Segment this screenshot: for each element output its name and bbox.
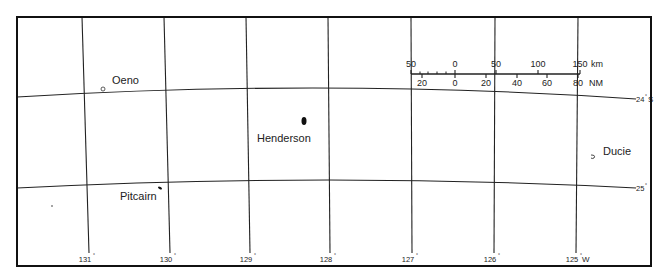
longitude-label: 131 [79,255,92,264]
nm-scale-label: 0 [452,78,457,88]
degree-symbol: ° [93,252,95,258]
km-scale-label: 50 [406,59,416,69]
island-label-oeno: Oeno [112,74,139,86]
km-scale-label: 0 [452,59,457,69]
island-oeno-marker [101,87,105,91]
nm-unit-label: NM [589,78,603,88]
degree-symbol: ° [645,93,647,99]
island-ducie-marker [591,155,595,159]
longitude-label: 130 [160,255,173,264]
parallel-line [17,180,636,188]
latitude-label: 24 [636,95,644,104]
nm-scale-label: 80 [573,78,583,88]
meridian-line [494,17,495,253]
km-scale-label: 150 [572,59,587,69]
longitude-lines: 131°130°129°128°127°126°125°W [79,17,590,264]
nm-scale-label: 20 [481,78,491,88]
nm-scale-label: 60 [542,78,552,88]
islet-dot [51,205,53,207]
km-scale-label: 100 [530,59,545,69]
degree-symbol: ° [174,252,176,258]
longitude-label: 126 [484,255,497,264]
degree-symbol: ° [645,182,647,188]
meridian-line [328,17,330,253]
km-scale-label: 50 [491,59,501,69]
meridian-line [411,17,412,253]
degree-symbol: ° [254,252,256,258]
island-label-pitcairn: Pitcairn [120,190,157,202]
longitude-label: 128 [320,255,333,264]
island-pitcairn-marker [157,186,162,190]
island-label-ducie: Ducie [603,145,631,157]
hemisphere-label: W [582,255,590,264]
scale-bar: 50050100150km20020406080NM [406,59,603,88]
meridian-line [246,17,250,253]
latitude-label: 25 [636,184,644,193]
meridian-line [576,17,578,253]
longitude-label: 125 [566,255,579,264]
meridian-line [164,17,170,253]
nm-scale-label: 20 [417,78,427,88]
map-canvas: 131°130°129°128°127°126°125°W 24°S25° 50… [0,0,666,279]
longitude-label: 129 [240,255,253,264]
nm-scale-label: 40 [512,78,522,88]
degree-symbol: ° [498,252,500,258]
meridian-line [82,17,89,253]
parallel-line [17,88,636,99]
degree-symbol: ° [416,252,418,258]
degree-symbol: ° [334,252,336,258]
latitude-lines: 24°S25° [17,88,653,193]
island-henderson-marker [302,117,307,125]
longitude-label: 127 [402,255,415,264]
island-label-henderson: Henderson [257,132,311,144]
km-unit-label: km [591,59,603,69]
map-frame [17,17,651,266]
